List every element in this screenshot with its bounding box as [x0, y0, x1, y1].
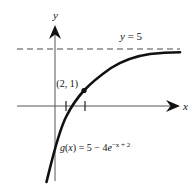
marked-point-label: (2, 1)	[30, 79, 78, 89]
function-constant: 5	[87, 142, 92, 153]
function-minus-sign: −	[94, 142, 100, 153]
x-axis-label: x	[183, 101, 188, 112]
function-exponent: −x + 2	[112, 141, 130, 149]
asymptote-label-variable: y	[120, 30, 125, 42]
function-paren-close: )	[73, 142, 76, 153]
asymptote-label-value: 5	[137, 30, 143, 42]
function-curve	[47, 52, 181, 182]
function-equals: =	[79, 142, 85, 153]
asymptote-label: y = 5	[120, 31, 142, 42]
graph-canvas	[0, 0, 196, 187]
y-axis-label: y	[53, 10, 58, 21]
function-graph-figure: y x y = 5 (2, 1) g(x) = 5 − 4e−x + 2	[0, 0, 196, 187]
marked-point-dot	[81, 88, 86, 93]
function-expression-label: g(x) = 5 − 4e−x + 2	[60, 142, 130, 153]
asymptote-label-operator: =	[128, 30, 134, 42]
